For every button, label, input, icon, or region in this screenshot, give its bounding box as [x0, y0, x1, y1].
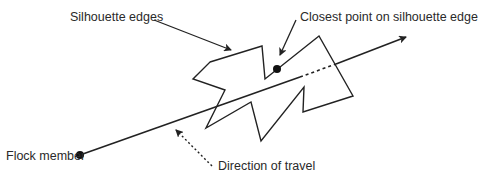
- silhouette-edges-pointer: [154, 20, 231, 50]
- closest-point-pointer: [280, 20, 296, 55]
- silhouette-polygon: [193, 36, 353, 141]
- closest-point-dot: [273, 65, 281, 73]
- direction-of-travel-label: Direction of travel: [218, 160, 315, 173]
- flock-member-label: Flock member: [6, 150, 85, 163]
- silhouette-edges-label: Silhouette edges: [70, 11, 163, 24]
- direction-of-travel-pointer: [176, 130, 212, 166]
- closest-point-label: Closest point on silhouette edge: [300, 11, 478, 24]
- travel-line-arrow: [336, 37, 406, 64]
- travel-line-dashed: [300, 64, 336, 77]
